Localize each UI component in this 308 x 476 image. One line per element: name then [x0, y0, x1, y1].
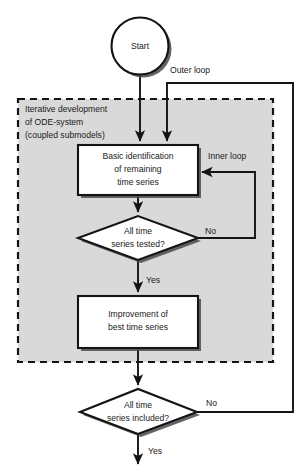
edge-label-outer-loop: Outer loop: [170, 65, 210, 75]
improvement-label-line-1: Improvement of: [108, 309, 168, 319]
node-improvement-best-time-series[interactable]: Improvement of best time series: [78, 296, 201, 351]
decision2-shape: [80, 389, 197, 434]
basic-label-line-1: Basic identification: [102, 151, 173, 161]
node-all-time-series-included[interactable]: All time series included?: [80, 389, 200, 437]
basic-label-line-2: of remaining: [114, 164, 162, 174]
edge-label-tested-yes: Yes: [146, 275, 160, 285]
flowchart-canvas: Iterative development of ODE-system (cou…: [0, 0, 308, 476]
group-label-line-2: of ODE-system: [25, 117, 83, 127]
group-label-line-1: Iterative development: [25, 104, 108, 114]
decision1-label-line-2: series tested?: [111, 239, 165, 249]
decision1-label-line-1: All time: [124, 226, 152, 236]
start-label: Start: [131, 41, 150, 51]
group-label-line-3: (coupled submodels): [25, 130, 105, 140]
node-start[interactable]: Start: [112, 18, 172, 78]
decision2-label-line-2: series included?: [107, 413, 169, 423]
basic-label-line-3: time series: [117, 177, 159, 187]
improvement-label-line-2: best time series: [108, 322, 168, 332]
decision2-label-line-1: All time: [124, 400, 152, 410]
edge-label-tested-no: No: [205, 226, 216, 236]
edge-label-included-no: No: [206, 398, 217, 408]
edge-label-inner-loop: Inner loop: [208, 151, 246, 161]
node-basic-identification[interactable]: Basic identification of remaining time s…: [78, 145, 201, 198]
flowchart-svg: Iterative development of ODE-system (cou…: [0, 0, 308, 476]
edge-label-included-yes: Yes: [148, 446, 162, 456]
